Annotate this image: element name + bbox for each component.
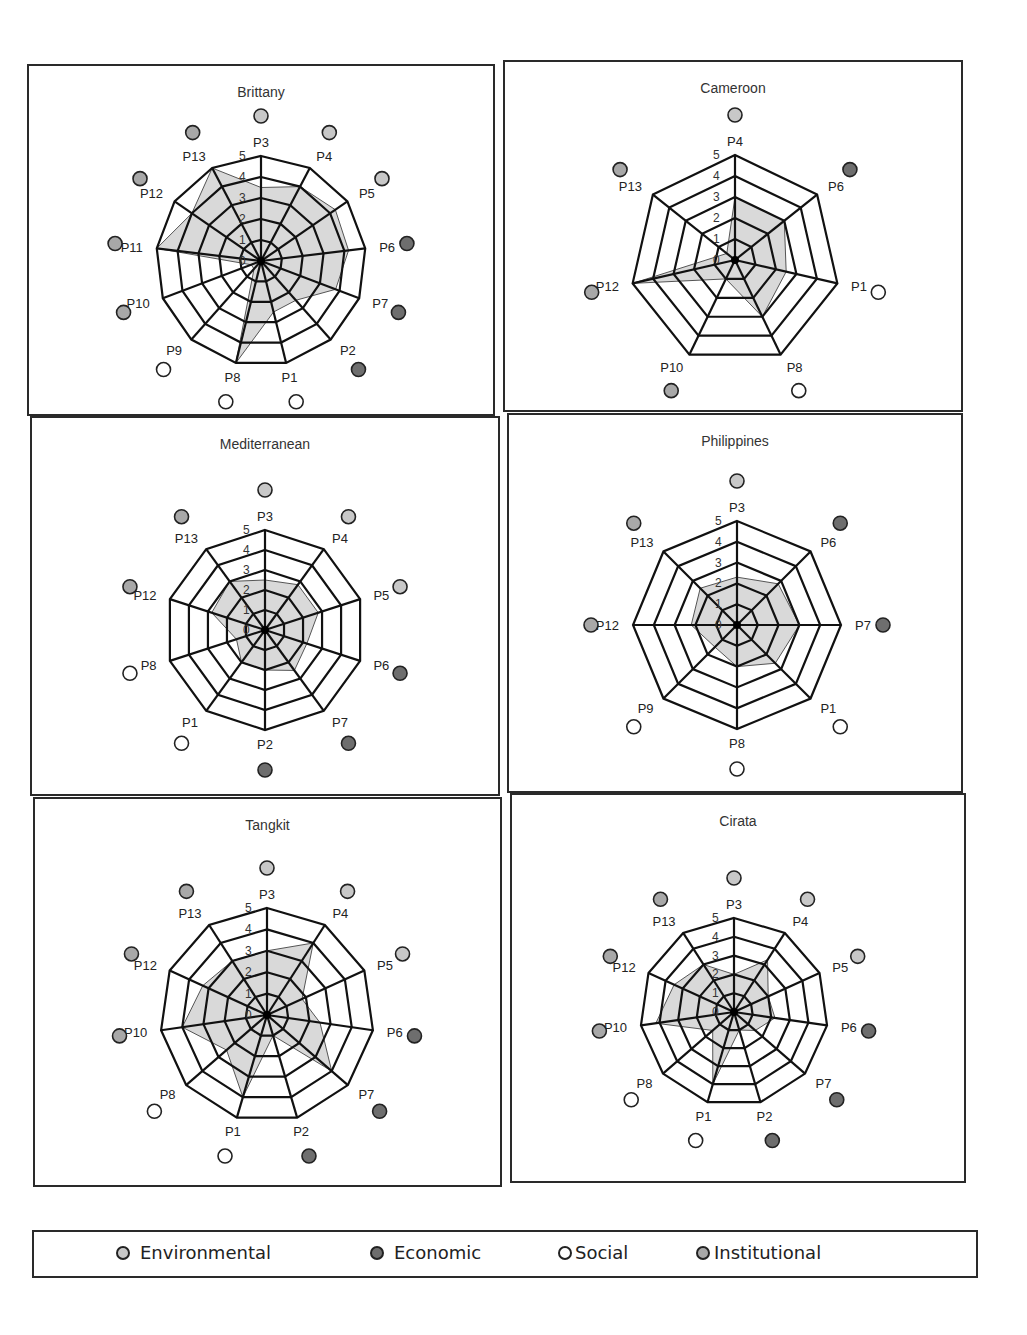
economic-dot-icon [393, 666, 407, 680]
tick-label: 2 [239, 212, 246, 226]
social-dot-icon [624, 1093, 638, 1107]
institutional-dot-icon [653, 892, 667, 906]
environmental-dot-icon [341, 510, 355, 524]
economic-dot-icon [407, 1029, 421, 1043]
tick-label: 4 [713, 169, 720, 183]
tick-label: 4 [239, 170, 246, 184]
axis-label: P9 [166, 343, 182, 358]
radar-chart: 012345P3P4P5P6P7P2P1P8P10P12P13 [35, 799, 504, 1189]
tick-label: 3 [715, 556, 722, 570]
tick-label: 5 [243, 523, 250, 537]
axis-label: P12 [613, 960, 636, 975]
environmental-dot-icon [396, 947, 410, 961]
axis-label: P7 [855, 618, 871, 633]
legend-label: Institutional [714, 1242, 821, 1263]
chart-panel-cameroon: Cameroon 012345P4P6P1P8P10P12P13 [503, 60, 963, 412]
radar-chart: 012345P3P4P5P6P7P2P1P8P10P12P13 [512, 795, 968, 1185]
axis-label: P10 [124, 1025, 147, 1040]
institutional-dot-icon [696, 1246, 710, 1260]
tick-label: 2 [713, 211, 720, 225]
axis-label: P2 [340, 343, 356, 358]
tick-label: 1 [243, 603, 250, 617]
social-dot-icon [689, 1134, 703, 1148]
social-dot-icon [157, 363, 171, 377]
axis-label: P3 [257, 509, 273, 524]
radar-chart: 012345P4P6P1P8P10P12P13 [505, 62, 965, 414]
axis-label: P9 [638, 701, 654, 716]
institutional-dot-icon [108, 237, 122, 251]
chart-panel-brittany: Brittany 012345P3P4P5P6P7P2P1P8P9P10P11P… [27, 64, 495, 416]
economic-dot-icon [830, 1093, 844, 1107]
axis-label: P1 [851, 279, 867, 294]
tick-label: 5 [713, 148, 720, 162]
tick-label: 5 [712, 911, 719, 925]
axis-label: P7 [372, 296, 388, 311]
axis-label: P5 [377, 958, 393, 973]
tick-label: 0 [239, 254, 246, 268]
center-point [730, 1008, 738, 1016]
social-dot-icon [218, 1149, 232, 1163]
economic-dot-icon [862, 1024, 876, 1038]
environmental-dot-icon [801, 892, 815, 906]
institutional-dot-icon [584, 618, 598, 632]
social-dot-icon [833, 720, 847, 734]
data-area [157, 168, 349, 363]
legend-label: Social [575, 1242, 628, 1263]
tick-label: 4 [243, 543, 250, 557]
chart-panel-cirata: Cirata 012345P3P4P5P6P7P2P1P8P10P12P13 [510, 793, 966, 1183]
social-dot-icon [175, 736, 189, 750]
tick-label: 1 [712, 986, 719, 1000]
social-dot-icon [627, 720, 641, 734]
axis-label: P4 [332, 906, 348, 921]
axis-label: P7 [358, 1087, 374, 1102]
tick-label: 3 [712, 949, 719, 963]
economic-dot-icon [341, 736, 355, 750]
tick-label: 4 [715, 535, 722, 549]
axis-label: P13 [178, 906, 201, 921]
environmental-dot-icon [375, 172, 389, 186]
axis-label: P6 [841, 1020, 857, 1035]
axis-label: P10 [604, 1020, 627, 1035]
legend-label: Economic [394, 1242, 481, 1263]
tick-label: 4 [245, 922, 252, 936]
environmental-dot-icon [341, 884, 355, 898]
institutional-dot-icon [179, 884, 193, 898]
institutional-dot-icon [613, 163, 627, 177]
tick-label: 1 [713, 232, 720, 246]
economic-dot-icon [370, 1246, 384, 1260]
social-dot-icon [558, 1246, 572, 1260]
social-dot-icon [871, 285, 885, 299]
institutional-dot-icon [603, 949, 617, 963]
axis-label: P8 [141, 658, 157, 673]
axis-label: P8 [787, 360, 803, 375]
tick-label: 4 [712, 930, 719, 944]
axis-label: P3 [259, 887, 275, 902]
institutional-dot-icon [664, 384, 678, 398]
legend-item-institutional: Institutional [696, 1242, 821, 1263]
axis-label: P11 [121, 240, 143, 255]
center-point [263, 1011, 271, 1019]
tick-label: 3 [239, 191, 246, 205]
axis-label: P13 [183, 149, 206, 164]
axis-label: P10 [660, 360, 683, 375]
axis-label: P3 [729, 500, 745, 515]
axis-label: P6 [379, 240, 395, 255]
axis-label: P6 [373, 658, 389, 673]
radar-chart: 012345P3P4P5P6P7P2P1P8P9P10P11P12P13 [29, 66, 497, 418]
center-point [261, 626, 269, 634]
economic-dot-icon [302, 1149, 316, 1163]
institutional-dot-icon [175, 510, 189, 524]
environmental-dot-icon [260, 861, 274, 875]
institutional-dot-icon [592, 1024, 606, 1038]
social-dot-icon [289, 395, 303, 409]
axis-label: P12 [134, 958, 157, 973]
axis-label: P2 [257, 737, 273, 752]
chart-panel-tangkit: Tangkit 012345P3P4P5P6P7P2P1P8P10P12P13 [33, 797, 502, 1187]
institutional-dot-icon [124, 947, 138, 961]
institutional-dot-icon [117, 305, 131, 319]
social-dot-icon [147, 1104, 161, 1118]
axis-label: P3 [726, 897, 742, 912]
axis-spoke [206, 630, 265, 711]
axis-label: P6 [387, 1025, 403, 1040]
environmental-dot-icon [730, 474, 744, 488]
